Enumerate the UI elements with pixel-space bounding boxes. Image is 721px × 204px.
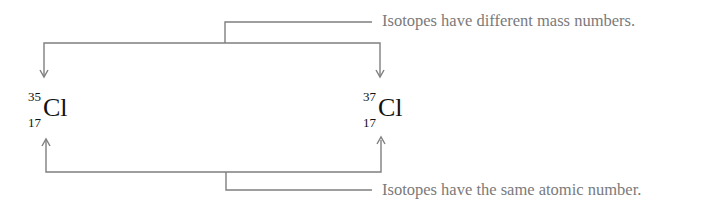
isotope-diagram: Isotopes have different mass numbers. Is… xyxy=(0,0,721,204)
element-symbol: Cl xyxy=(378,95,403,121)
atomic-number: 17 xyxy=(28,116,41,129)
mass-number: 37 xyxy=(363,90,376,103)
mass-number: 35 xyxy=(28,90,41,103)
top-label: Isotopes have different mass numbers. xyxy=(382,13,635,30)
top-bracket-line xyxy=(44,43,380,76)
bottom-branch-line xyxy=(226,172,372,190)
bottom-label: Isotopes have the same atomic number. xyxy=(382,182,641,199)
top-branch-line xyxy=(225,22,372,43)
bottom-bracket-line xyxy=(46,140,381,172)
atomic-number: 17 xyxy=(363,116,376,129)
element-symbol: Cl xyxy=(43,95,68,121)
bracket-connectors xyxy=(0,0,721,204)
